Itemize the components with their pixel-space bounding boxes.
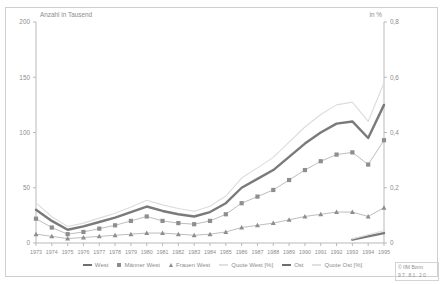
legend-item-west[interactable]: West <box>83 262 109 268</box>
x-tick-label: 1985 <box>220 249 232 255</box>
y-tick-label-left: 100 <box>19 129 30 136</box>
data-point-marker <box>34 232 39 237</box>
series-west <box>36 105 384 230</box>
legend-item-quote-west[interactable]: Quote West [%] <box>219 262 273 268</box>
x-tick-label: 1977 <box>93 249 105 255</box>
data-point-marker <box>208 219 212 223</box>
data-point-marker <box>366 162 370 166</box>
x-tick-label: 1975 <box>62 249 74 255</box>
y-tick-label-left: 0 <box>26 239 30 246</box>
x-tick-label: 1990 <box>299 249 311 255</box>
y-tick-label-left: 200 <box>19 18 30 25</box>
legend-item-ost[interactable]: Ost <box>282 262 303 268</box>
y-tick-label-right: 0,8 <box>390 18 399 25</box>
legend-swatch-line-light-icon <box>312 264 321 266</box>
x-tick-label: 1988 <box>267 249 279 255</box>
x-tick-label: 1993 <box>346 249 358 255</box>
x-tick-label: 1984 <box>204 249 216 255</box>
series-line <box>36 105 384 230</box>
credit-line-1: © IfM Bonn <box>398 264 436 272</box>
series-line <box>352 233 384 240</box>
legend-label: Frauen West <box>176 262 210 268</box>
legend-swatch-line-light-icon <box>219 264 228 266</box>
data-point-marker <box>350 150 354 154</box>
x-tick-label: 1986 <box>236 249 248 255</box>
y-tick-label-right: 0,4 <box>390 129 399 136</box>
y-tick-label-left: 150 <box>19 74 30 81</box>
legend-item-quote-ost[interactable]: Quote Ost [%] <box>312 262 362 268</box>
series-ost <box>352 233 384 240</box>
x-tick-label: 1973 <box>30 249 42 255</box>
data-point-marker <box>303 168 307 172</box>
chart-canvas: 05010015020000,20,40,60,8197319741975197… <box>0 0 445 284</box>
legend-label: Männer West <box>124 262 160 268</box>
data-point-marker <box>145 214 149 218</box>
data-point-marker <box>224 212 228 216</box>
x-tick-label: 1974 <box>46 249 58 255</box>
x-tick-label: 1983 <box>188 249 200 255</box>
credit-box: © IfM Bonn 97 81 20 <box>395 262 439 281</box>
legend-swatch-line-dark-icon <box>83 264 92 266</box>
series-quote-west <box>36 83 384 227</box>
x-tick-label: 1980 <box>141 249 153 255</box>
y-tick-label-right: 0 <box>390 239 394 246</box>
chart-svg: 05010015020000,20,40,60,8197319741975197… <box>0 0 445 284</box>
data-point-marker <box>240 201 244 205</box>
legend-swatch-line-dark-icon <box>282 264 291 266</box>
credit-line-2: 97 81 20 <box>398 272 436 280</box>
data-point-marker <box>97 227 101 231</box>
x-tick-label: 1994 <box>362 249 374 255</box>
data-point-marker <box>50 225 54 229</box>
data-point-marker <box>66 232 70 236</box>
y-tick-label-right: 0,6 <box>390 74 399 81</box>
x-tick-label: 1976 <box>77 249 89 255</box>
legend-swatch-square-icon <box>117 263 121 267</box>
data-point-marker <box>160 219 164 223</box>
x-tick-label: 1989 <box>283 249 295 255</box>
x-tick-label: 1982 <box>172 249 184 255</box>
data-point-marker <box>382 138 386 142</box>
data-point-marker <box>81 230 85 234</box>
y-axis-title-left: Anzahl in Tausend <box>40 11 93 18</box>
legend-label: Quote Ost [%] <box>324 262 362 268</box>
y-axis-title-right: in % <box>370 11 383 18</box>
axis-labels: 05010015020000,20,40,60,8197319741975197… <box>19 11 399 255</box>
data-point-marker <box>271 188 275 192</box>
data-point-marker <box>192 222 196 226</box>
legend-swatch-triangle-icon <box>169 263 173 267</box>
x-tick-label: 1987 <box>251 249 263 255</box>
data-point-marker <box>34 217 38 221</box>
legend-item-m-nner-west[interactable]: Männer West <box>117 262 160 268</box>
legend-item-frauen-west[interactable]: Frauen West <box>169 262 210 268</box>
x-tick-label: 1978 <box>109 249 121 255</box>
series-layer <box>34 83 387 241</box>
data-point-marker <box>319 159 323 163</box>
x-tick-label: 1992 <box>331 249 343 255</box>
legend-label: Ost <box>294 262 303 268</box>
legend-label: West <box>95 262 109 268</box>
data-point-marker <box>334 153 338 157</box>
legend-label: Quote West [%] <box>231 262 273 268</box>
x-tick-label: 1995 <box>378 249 390 255</box>
series-line <box>36 83 384 227</box>
data-point-marker <box>382 205 387 210</box>
data-point-marker <box>255 194 259 198</box>
x-tick-label: 1981 <box>157 249 169 255</box>
chart-legend: WestMänner WestFrauen WestQuote West [%]… <box>0 258 445 272</box>
data-point-marker <box>176 221 180 225</box>
x-tick-label: 1979 <box>125 249 137 255</box>
data-point-marker <box>129 219 133 223</box>
data-point-marker <box>113 223 117 227</box>
y-tick-label-right: 0,2 <box>390 184 399 191</box>
data-point-marker <box>287 178 291 182</box>
x-tick-label: 1991 <box>315 249 327 255</box>
y-tick-label-left: 50 <box>23 184 31 191</box>
